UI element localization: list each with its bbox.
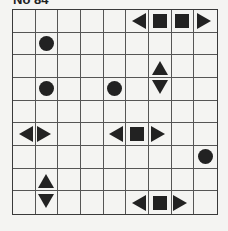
grid-cell-r2-c7[interactable] — [172, 55, 195, 78]
grid-cell-r1-c7[interactable] — [172, 33, 195, 56]
grid-cell-r4-c1[interactable] — [36, 101, 59, 124]
ship-end-right-icon — [37, 126, 51, 142]
grid-cell-r6-c6[interactable] — [149, 146, 172, 169]
grid-cell-r6-c8[interactable] — [194, 146, 217, 169]
grid-cell-r4-c3[interactable] — [81, 101, 104, 124]
grid-cell-r5-c2[interactable] — [58, 123, 81, 146]
grid-cell-r0-c3[interactable] — [81, 10, 104, 33]
ship-middle-square-icon — [130, 127, 144, 141]
grid-cell-r7-c7[interactable] — [172, 169, 195, 192]
grid-cell-r2-c0[interactable] — [13, 55, 36, 78]
ship-end-up-icon — [152, 61, 168, 75]
grid-cell-r7-c1[interactable] — [36, 169, 59, 192]
grid-cell-r1-c2[interactable] — [58, 33, 81, 56]
grid-cell-r5-c3[interactable] — [81, 123, 104, 146]
grid-cell-r0-c5[interactable] — [126, 10, 149, 33]
grid-cell-r2-c3[interactable] — [81, 55, 104, 78]
submarine-circle-icon — [107, 81, 122, 96]
grid-cell-r2-c6[interactable] — [149, 55, 172, 78]
grid-cell-r7-c0[interactable] — [13, 169, 36, 192]
grid-cell-r8-c2[interactable] — [58, 191, 81, 214]
grid-cell-r8-c3[interactable] — [81, 191, 104, 214]
grid-cell-r2-c1[interactable] — [36, 55, 59, 78]
grid-cell-r0-c4[interactable] — [104, 10, 127, 33]
ship-end-right-icon — [151, 126, 165, 142]
grid-cell-r0-c8[interactable] — [194, 10, 217, 33]
grid-cell-r4-c7[interactable] — [172, 101, 195, 124]
grid-cell-r6-c1[interactable] — [36, 146, 59, 169]
grid-cell-r7-c8[interactable] — [194, 169, 217, 192]
grid-cell-r7-c2[interactable] — [58, 169, 81, 192]
submarine-circle-icon — [39, 81, 54, 96]
grid-cell-r6-c2[interactable] — [58, 146, 81, 169]
grid-cell-r1-c6[interactable] — [149, 33, 172, 56]
grid-cell-r1-c4[interactable] — [104, 33, 127, 56]
ship-end-left-icon — [132, 13, 146, 29]
grid-cell-r2-c2[interactable] — [58, 55, 81, 78]
ship-end-down-icon — [38, 194, 54, 208]
grid-cell-r0-c7[interactable] — [172, 10, 195, 33]
grid-cell-r2-c5[interactable] — [126, 55, 149, 78]
grid-cell-r7-c6[interactable] — [149, 169, 172, 192]
grid-cell-r0-c6[interactable] — [149, 10, 172, 33]
grid-cell-r4-c5[interactable] — [126, 101, 149, 124]
grid-cell-r5-c4[interactable] — [104, 123, 127, 146]
grid-cell-r3-c0[interactable] — [13, 78, 36, 101]
grid-cell-r7-c3[interactable] — [81, 169, 104, 192]
grid-cell-r6-c4[interactable] — [104, 146, 127, 169]
grid-cell-r1-c5[interactable] — [126, 33, 149, 56]
ship-end-left-icon — [109, 126, 123, 142]
grid-cell-r3-c5[interactable] — [126, 78, 149, 101]
grid-cell-r6-c5[interactable] — [126, 146, 149, 169]
grid-cell-r1-c3[interactable] — [81, 33, 104, 56]
grid-cell-r5-c7[interactable] — [172, 123, 195, 146]
grid-cell-r5-c6[interactable] — [149, 123, 172, 146]
puzzle-title: No 84 — [13, 0, 48, 7]
grid-cell-r3-c4[interactable] — [104, 78, 127, 101]
grid-cell-r8-c1[interactable] — [36, 191, 59, 214]
grid-cell-r8-c6[interactable] — [149, 191, 172, 214]
grid-cell-r6-c3[interactable] — [81, 146, 104, 169]
grid-cell-r1-c1[interactable] — [36, 33, 59, 56]
grid-cell-r8-c4[interactable] — [104, 191, 127, 214]
grid-cell-r5-c5[interactable] — [126, 123, 149, 146]
grid-cell-r3-c2[interactable] — [58, 78, 81, 101]
ship-end-up-icon — [38, 174, 54, 188]
grid-cell-r4-c2[interactable] — [58, 101, 81, 124]
submarine-circle-icon — [198, 149, 213, 164]
ship-middle-square-icon — [153, 196, 167, 210]
grid-cell-r3-c8[interactable] — [194, 78, 217, 101]
grid-cell-r7-c5[interactable] — [126, 169, 149, 192]
grid-cell-r5-c8[interactable] — [194, 123, 217, 146]
grid-cell-r1-c0[interactable] — [13, 33, 36, 56]
grid-cell-r4-c6[interactable] — [149, 101, 172, 124]
grid-cell-r0-c2[interactable] — [58, 10, 81, 33]
grid-cell-r8-c5[interactable] — [126, 191, 149, 214]
grid-cell-r6-c0[interactable] — [13, 146, 36, 169]
grid-cell-r8-c8[interactable] — [194, 191, 217, 214]
ship-end-right-icon — [197, 13, 211, 29]
ship-end-left-icon — [19, 126, 33, 142]
ship-end-down-icon — [152, 80, 168, 94]
grid-cell-r1-c8[interactable] — [194, 33, 217, 56]
grid-cell-r2-c4[interactable] — [104, 55, 127, 78]
grid-cell-r6-c7[interactable] — [172, 146, 195, 169]
grid-cell-r2-c8[interactable] — [194, 55, 217, 78]
grid-cell-r3-c1[interactable] — [36, 78, 59, 101]
grid-cell-r3-c3[interactable] — [81, 78, 104, 101]
ship-middle-square-icon — [153, 14, 167, 28]
grid-cell-r5-c0[interactable] — [13, 123, 36, 146]
grid-cell-r4-c4[interactable] — [104, 101, 127, 124]
grid-cell-r8-c0[interactable] — [13, 191, 36, 214]
grid-cell-r5-c1[interactable] — [36, 123, 59, 146]
grid-cell-r3-c6[interactable] — [149, 78, 172, 101]
grid-cell-r8-c7[interactable] — [172, 191, 195, 214]
grid-cell-r0-c0[interactable] — [13, 10, 36, 33]
submarine-circle-icon — [39, 36, 54, 51]
grid-cell-r4-c8[interactable] — [194, 101, 217, 124]
grid-cell-r4-c0[interactable] — [13, 101, 36, 124]
ship-end-left-icon — [132, 195, 146, 211]
grid-cell-r0-c1[interactable] — [36, 10, 59, 33]
grid-cell-r3-c7[interactable] — [172, 78, 195, 101]
grid-cell-r7-c4[interactable] — [104, 169, 127, 192]
